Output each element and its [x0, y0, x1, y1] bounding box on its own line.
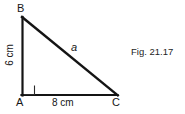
right-angle-marker-icon: [24, 86, 35, 95]
side-label-ab-6cm: 6 cm: [5, 38, 15, 72]
side-label-hypotenuse-a: a: [71, 42, 77, 52]
vertex-label-b: B: [17, 3, 24, 14]
triangle-hypotenuse-bc: [22, 17, 118, 95]
figure-caption: Fig. 21.17: [131, 46, 173, 57]
vertex-label-c: C: [112, 97, 120, 108]
side-label-ac-8cm: 8 cm: [52, 98, 74, 108]
figure-21-17: B A C 6 cm 8 cm a Fig. 21.17: [0, 0, 185, 114]
vertex-label-a: A: [16, 97, 23, 108]
right-triangle-drawing: [0, 0, 185, 114]
